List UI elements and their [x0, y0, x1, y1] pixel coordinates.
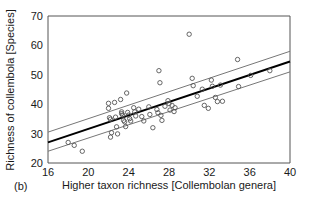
- data-point: [220, 99, 224, 103]
- data-point: [125, 110, 129, 114]
- data-point: [115, 132, 119, 136]
- data-point: [118, 97, 122, 101]
- data-point: [124, 91, 128, 95]
- y-tick-label: 70: [31, 10, 43, 22]
- data-point: [66, 140, 70, 144]
- figure-panel-b: 16202428323640 203040506070 Higher taxon…: [0, 0, 311, 202]
- data-point: [106, 106, 110, 110]
- data-point: [140, 114, 144, 118]
- y-tick-label: 60: [31, 39, 43, 51]
- regression-line: [48, 62, 290, 143]
- y-axis-label: Richness of collembola [Species]: [4, 9, 16, 170]
- data-point: [236, 84, 240, 88]
- data-point: [157, 68, 161, 72]
- x-tick-label: 32: [203, 166, 215, 178]
- data-point: [190, 76, 194, 80]
- data-point: [151, 126, 155, 130]
- x-tick-label: 20: [82, 166, 94, 178]
- x-tick-label: 16: [42, 166, 54, 178]
- data-point: [235, 57, 239, 61]
- data-point: [215, 99, 219, 103]
- y-tick-label: 20: [31, 157, 43, 169]
- x-tick-label: 36: [244, 166, 256, 178]
- data-point: [109, 131, 113, 135]
- y-tick-label: 40: [31, 98, 43, 110]
- data-point: [163, 104, 167, 108]
- x-tick-label: 40: [284, 166, 296, 178]
- data-point: [112, 100, 116, 104]
- x-tick-label: 24: [123, 166, 135, 178]
- data-point: [80, 149, 84, 153]
- scatter-plot: 16202428323640 203040506070 Higher taxon…: [0, 0, 311, 202]
- data-point: [137, 107, 141, 111]
- data-point: [158, 81, 162, 85]
- data-point: [106, 101, 110, 105]
- data-point: [113, 115, 117, 119]
- upper-confidence-band: [48, 51, 290, 132]
- x-tick-label: 28: [163, 166, 175, 178]
- x-tick-labels: 16202428323640: [42, 166, 296, 178]
- y-tick-label: 50: [31, 69, 43, 81]
- regression-line-layer: [48, 62, 290, 143]
- data-point: [134, 114, 138, 118]
- data-point: [195, 94, 199, 98]
- data-point: [148, 112, 152, 116]
- data-point: [209, 78, 213, 82]
- data-point: [202, 103, 206, 107]
- data-point: [108, 135, 112, 139]
- plot-frame: [48, 16, 290, 163]
- data-point: [187, 32, 191, 36]
- data-point: [206, 106, 210, 110]
- y-tick-labels: 203040506070: [31, 10, 43, 169]
- panel-label: (b): [14, 180, 27, 192]
- data-point: [160, 118, 164, 122]
- data-point: [72, 143, 76, 147]
- x-axis-label: Higher taxon richness [Collembolan gener…: [62, 179, 276, 191]
- y-tick-label: 30: [31, 128, 43, 140]
